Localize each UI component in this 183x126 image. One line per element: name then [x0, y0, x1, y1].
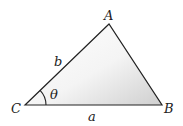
vertex-label-b: B [163, 101, 174, 116]
triangle-diagram: A B C b a θ [0, 0, 183, 126]
triangle-shape [25, 24, 162, 105]
side-label-b: b [54, 54, 62, 69]
vertex-label-a: A [103, 8, 113, 23]
vertex-label-c: C [11, 101, 21, 116]
side-label-a: a [88, 109, 96, 124]
angle-label-theta: θ [50, 87, 58, 102]
